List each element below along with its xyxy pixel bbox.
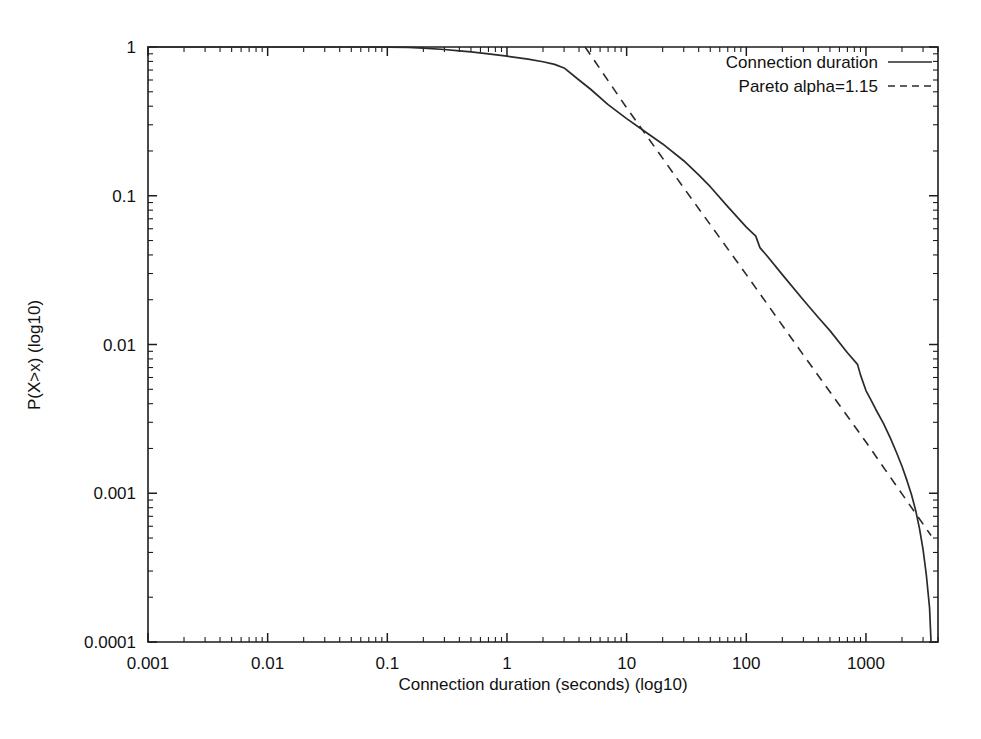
y-tick-label: 0.01 — [103, 336, 136, 355]
x-tick-label: 0.1 — [375, 654, 399, 673]
legend-label-connection-duration: Connection duration — [726, 53, 878, 72]
y-tick-label: 0.001 — [93, 484, 136, 503]
x-tick-label: 0.001 — [127, 654, 170, 673]
x-axis-ticks — [148, 47, 938, 642]
x-tick-label: 10 — [617, 654, 636, 673]
legend-label-pareto-fit: Pareto alpha=1.15 — [739, 77, 878, 96]
x-tick-label: 100 — [732, 654, 760, 673]
x-tick-label: 1000 — [847, 654, 885, 673]
y-axis-title: P(X>x) (log10) — [25, 300, 44, 410]
x-tick-label: 1 — [502, 654, 511, 673]
y-tick-label: 0.1 — [112, 187, 136, 206]
chart-plot: 0.0010.010.11101001000 0.00010.0010.010.… — [0, 0, 981, 739]
plot-frame — [148, 47, 938, 642]
series-pareto-fit — [585, 47, 931, 535]
x-tick-label: 0.01 — [251, 654, 284, 673]
y-axis-ticks — [148, 47, 938, 642]
y-axis-tick-labels: 0.00010.0010.010.11 — [84, 38, 136, 652]
y-tick-label: 1 — [127, 38, 136, 57]
figure-container: 0.0010.010.11101001000 0.00010.0010.010.… — [0, 0, 981, 739]
y-tick-label: 0.0001 — [84, 633, 136, 652]
series-connection-duration — [148, 47, 931, 642]
x-axis-tick-labels: 0.0010.010.11101001000 — [127, 654, 885, 673]
x-axis-title: Connection duration (seconds) (log10) — [398, 675, 687, 694]
legend: Connection duration Pareto alpha=1.15 — [726, 53, 932, 96]
